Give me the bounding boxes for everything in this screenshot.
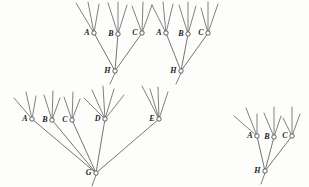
twig-b-n2-0 [108,3,117,32]
edge-h-c-upper-right [183,35,207,69]
twigs-layer [14,2,300,135]
node-label: C [198,28,204,37]
node-circle-icon[interactable] [157,117,161,121]
twig-a-n5-0 [152,5,165,31]
edge-h-b-right [266,140,274,169]
node-label: H [169,66,177,75]
node-circle-icon[interactable] [140,31,144,35]
twig-a-n5-1 [163,2,166,30]
twig-c-n3-2 [143,5,152,31]
edge-h-a-upper-right [167,35,180,68]
twig-e-n13-0 [142,86,158,117]
node-c-upper-right[interactable]: C [198,28,210,37]
node-circle-icon[interactable] [116,32,120,36]
node-label: G [86,168,92,177]
node-circle-icon[interactable] [255,134,259,138]
twig-b-n6-2 [189,6,196,32]
twig-h-right-down [176,73,181,84]
edge-h-c-right [267,138,291,169]
node-h-right[interactable]: H [253,166,267,175]
node-circle-icon[interactable] [70,118,74,122]
twig-b-n2-2 [119,5,127,32]
twig-c-n3-1 [142,2,143,30]
twig-e-n13-2 [158,87,159,116]
node-label: B [41,115,48,124]
node-label: H [103,66,111,75]
edge-h-a-upper-left [95,35,113,68]
twig-a-n9-2 [32,96,36,116]
node-d-lower-left[interactable]: D [94,114,107,123]
node-c-right[interactable]: C [282,131,294,140]
node-label: B [177,29,184,38]
twig-a-n1-2 [94,4,99,30]
extra-twigs-layer [92,73,265,186]
twig-e-n13-3 [160,92,168,117]
node-label: C [62,115,68,124]
twig-a-n1-0 [76,3,93,31]
twig-c-n11-2 [73,99,80,118]
twig-b-n10-0 [44,95,51,118]
twig-g-down [92,175,96,186]
edge-g-a [34,121,94,172]
node-circle-icon[interactable] [272,135,276,139]
node-circle-icon[interactable] [186,32,190,36]
twig-c-n11-1 [72,92,73,117]
node-label: A [155,28,162,37]
twig-hr-down [261,173,265,184]
node-label: A [21,114,28,123]
twig-h-left-down [110,73,115,84]
node-label: C [132,28,138,37]
node-circle-icon[interactable] [179,69,183,73]
node-circle-icon[interactable] [113,69,117,73]
node-circle-icon[interactable] [94,171,98,175]
twig-b-n10-1 [52,91,53,117]
twig-a-n1-1 [88,2,94,30]
twig-b-n16-2 [275,116,281,135]
twig-b-n10-2 [53,98,60,118]
nodes-layer: ABCHABCHABCDEGABCH [21,28,294,177]
node-h-upper-right[interactable]: H [169,66,183,75]
node-label: E [148,114,154,123]
twig-a-n15-1 [246,108,256,134]
twig-d-n12-1 [92,90,104,117]
node-circle-icon[interactable] [92,31,96,35]
edge-h-b-upper-left [115,37,118,69]
node-circle-icon[interactable] [50,118,54,122]
node-label: H [253,166,261,175]
node-circle-icon[interactable] [290,134,294,138]
edge-h-c-upper-left [117,35,141,69]
twig-d-n12-2 [103,86,105,116]
edge-g-c [73,122,95,170]
twig-c-n3-0 [132,6,141,31]
edge-h-a-right [258,139,265,169]
node-label: C [282,131,288,140]
edge-g-d [96,122,104,171]
twig-c-n7-0 [201,8,207,30]
twig-c-n7-2 [209,4,218,31]
twig-b-n6-0 [179,5,187,32]
node-label: B [107,29,114,38]
edge-g-b [54,122,95,171]
twig-c-n17-2 [293,114,300,134]
node-label: D [94,114,101,123]
node-label: A [246,131,253,140]
node-circle-icon[interactable] [263,169,267,173]
node-label: B [263,132,270,141]
node-label: A [83,28,90,37]
node-circle-icon[interactable] [164,31,168,35]
edge-g-e [98,121,157,172]
twig-a-n5-2 [167,4,173,30]
branching-tree-diagram: ABCHABCHABCDEGABCH [0,0,309,187]
node-circle-icon[interactable] [206,31,210,35]
node-circle-icon[interactable] [103,117,107,121]
node-a-upper-right[interactable]: A [155,28,168,37]
figure-root: ABCHABCHABCDEGABCH [0,0,309,187]
node-circle-icon[interactable] [30,117,34,121]
twig-e-n13-1 [150,89,158,117]
